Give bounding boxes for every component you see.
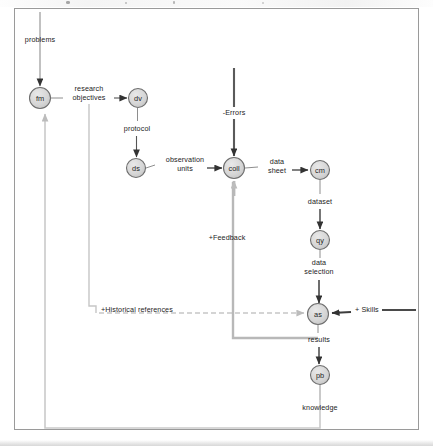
label-observation-units: observation units: [166, 156, 204, 173]
label-historical-references: +Historical references: [101, 306, 173, 315]
label-errors: -Errors: [223, 109, 246, 118]
label-dataset: dataset: [308, 198, 332, 207]
node-pb[interactable]: pb: [311, 366, 330, 385]
node-pb-label: pb: [316, 371, 324, 380]
node-coll-label: coll: [228, 164, 239, 173]
node-fm[interactable]: fm: [30, 88, 51, 109]
node-cm[interactable]: cm: [311, 161, 330, 180]
label-skills: + Skills: [355, 306, 379, 315]
node-coll[interactable]: coll: [224, 158, 245, 179]
node-as-label: as: [314, 310, 322, 319]
node-ds[interactable]: ds: [127, 159, 146, 178]
label-data-sheet: data sheet: [268, 158, 286, 175]
diagram-canvas: fm dv ds coll cm qy as pb: [0, 0, 433, 446]
node-qy-label: qy: [316, 236, 324, 245]
diagram-outer-border: [15, 9, 419, 430]
node-dv-label: dv: [134, 94, 142, 103]
label-feedback: +Feedback: [209, 234, 246, 243]
label-results: results: [308, 336, 330, 345]
label-knowledge: knowledge: [302, 404, 337, 413]
label-data-selection: data selection: [304, 259, 333, 276]
node-cm-label: cm: [315, 166, 325, 175]
label-protocol: protocol: [124, 125, 150, 134]
label-problems: problems: [25, 36, 55, 45]
node-as[interactable]: as: [308, 304, 329, 325]
node-qy[interactable]: qy: [311, 231, 330, 250]
scanned-diagram-page: fm dv ds coll cm qy as pb: [0, 0, 433, 446]
edge-historical-references: [89, 104, 304, 313]
node-dv[interactable]: dv: [129, 89, 148, 108]
label-research-objectives: research objectives: [73, 85, 106, 102]
node-ds-label: ds: [132, 164, 140, 173]
node-fm-label: fm: [36, 94, 44, 103]
